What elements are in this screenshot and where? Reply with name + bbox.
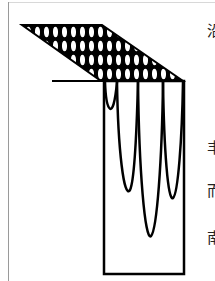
side-text-char-3: 而 (207, 184, 215, 199)
diagram-figure (0, 0, 215, 281)
u-curve-1 (105, 82, 117, 109)
hatched-trapezoid (22, 25, 184, 82)
side-text-char-1: 沿 (207, 24, 215, 39)
u-curves (105, 82, 183, 236)
u-curve-4 (163, 82, 183, 198)
side-text-char-4: 南 (207, 231, 215, 246)
u-curve-2 (117, 82, 138, 191)
u-curve-3 (138, 82, 163, 236)
side-text-char-2: 丰 (207, 141, 215, 156)
container-rectangle (104, 81, 184, 274)
